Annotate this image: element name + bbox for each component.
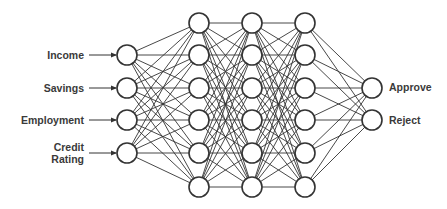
hidden-3-node-6 <box>295 177 315 197</box>
hidden-3-node-2 <box>295 45 315 65</box>
hidden-1-node-5 <box>189 143 209 163</box>
connection-line <box>127 23 199 120</box>
credit-rating-line1: Credit <box>4 141 84 153</box>
input-label-credit-rating: Credit Rating <box>4 141 84 165</box>
connection-line <box>127 23 199 88</box>
connection-line <box>127 23 199 55</box>
hidden-1-node-2 <box>189 45 209 65</box>
input-label-employment: Employment <box>4 114 84 126</box>
input-node-4 <box>117 143 137 163</box>
connection-line <box>127 120 199 187</box>
hidden-3-node-5 <box>295 143 315 163</box>
output-label-approve: Approve <box>389 81 432 93</box>
connection-line <box>305 55 372 88</box>
hidden-1-node-4 <box>189 110 209 130</box>
neural-network-diagram <box>0 0 447 209</box>
hidden-3-node-4 <box>295 110 315 130</box>
connection-line <box>127 153 199 187</box>
hidden-2-node-6 <box>242 177 262 197</box>
credit-rating-line2: Rating <box>4 153 84 165</box>
connection-line <box>127 88 199 187</box>
output-node-1 <box>362 78 382 98</box>
output-label-reject: Reject <box>389 114 421 126</box>
input-node-3 <box>117 110 137 130</box>
input-arrows <box>89 55 116 153</box>
hidden-1-node-3 <box>189 78 209 98</box>
connection-line <box>305 88 372 187</box>
input-node-1 <box>117 45 137 65</box>
hidden-2-node-1 <box>242 13 262 33</box>
hidden-2-node-4 <box>242 110 262 130</box>
hidden-3-node-3 <box>295 78 315 98</box>
hidden-2-node-2 <box>242 45 262 65</box>
output-node-2 <box>362 110 382 130</box>
nodes <box>117 13 382 197</box>
hidden-3-node-1 <box>295 13 315 33</box>
hidden-2-node-3 <box>242 78 262 98</box>
input-label-income: Income <box>4 49 84 61</box>
hidden-1-node-1 <box>189 13 209 33</box>
input-label-savings: Savings <box>4 82 84 94</box>
input-node-2 <box>117 78 137 98</box>
hidden-1-node-6 <box>189 177 209 197</box>
connection-line <box>305 120 372 153</box>
hidden-2-node-5 <box>242 143 262 163</box>
